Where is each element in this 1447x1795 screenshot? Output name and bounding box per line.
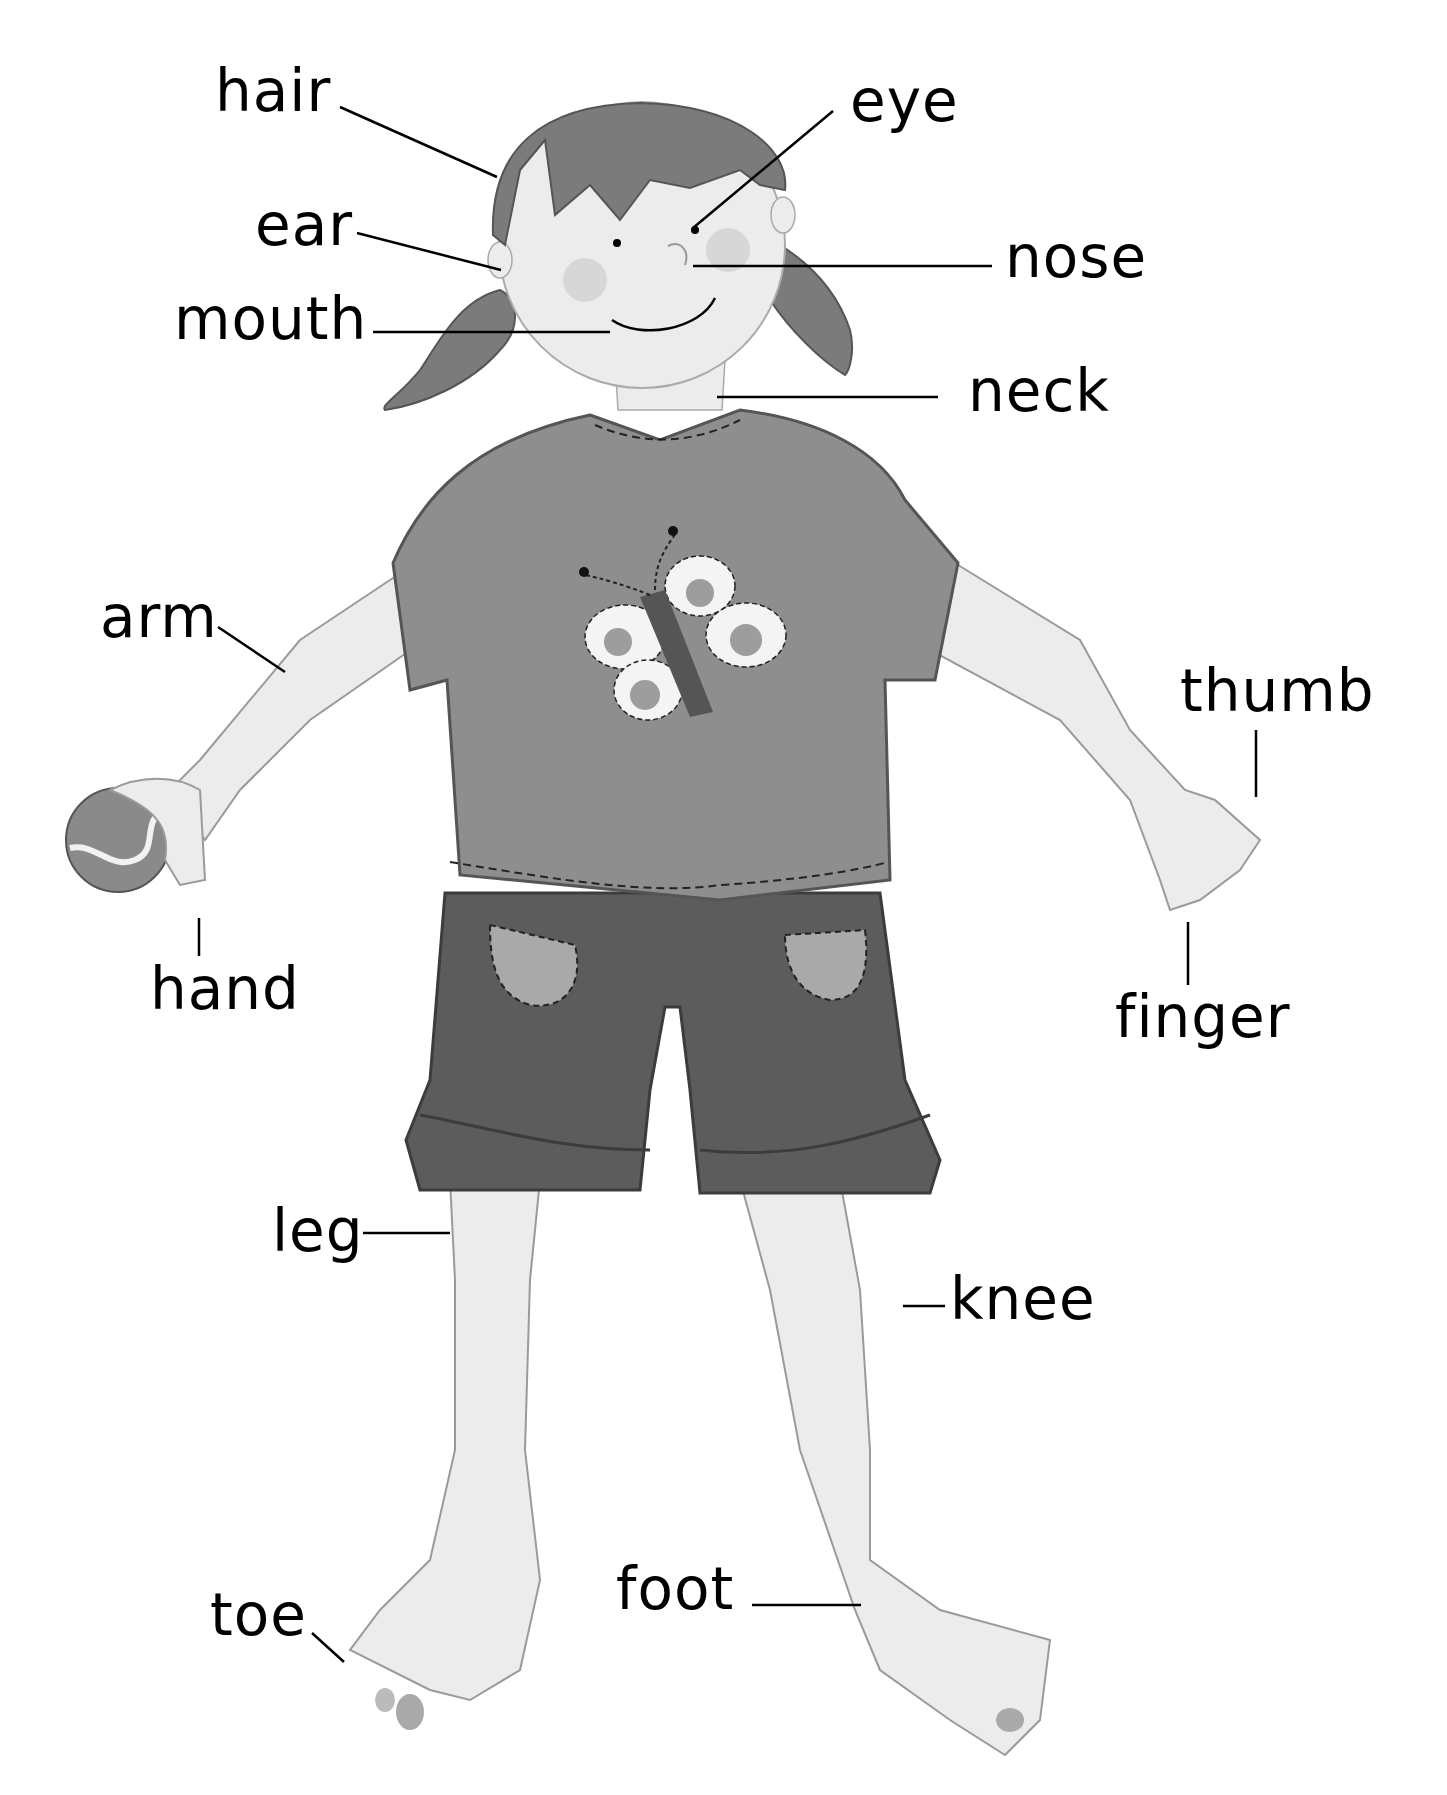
label-nose: nose bbox=[1005, 228, 1147, 286]
left-leg bbox=[350, 1180, 540, 1700]
label-eye: eye bbox=[850, 72, 959, 130]
label-neck: neck bbox=[968, 362, 1110, 420]
toe-leader-line bbox=[312, 1633, 344, 1662]
hair-leader-line bbox=[340, 107, 497, 177]
body-parts-diagram: hair eye ear nose mouth neck arm thumb h… bbox=[0, 0, 1447, 1795]
right-ear bbox=[771, 197, 795, 233]
label-arm: arm bbox=[100, 588, 218, 646]
ear-leader-line bbox=[357, 233, 501, 270]
label-ear: ear bbox=[255, 196, 353, 254]
label-hair: hair bbox=[215, 62, 331, 120]
arm-leader-line bbox=[218, 627, 285, 672]
left-pigtail bbox=[384, 290, 515, 410]
label-mouth: mouth bbox=[174, 290, 367, 348]
label-hand: hand bbox=[150, 960, 300, 1018]
left-ear bbox=[488, 242, 512, 278]
label-thumb: thumb bbox=[1180, 662, 1375, 720]
label-finger: finger bbox=[1115, 988, 1291, 1046]
label-foot: foot bbox=[616, 1560, 734, 1618]
label-leg: leg bbox=[272, 1202, 364, 1260]
label-toe: toe bbox=[210, 1586, 307, 1644]
eye-left bbox=[613, 239, 621, 247]
girl-illustration bbox=[0, 0, 1447, 1795]
cheek-left bbox=[563, 258, 607, 302]
label-knee: knee bbox=[950, 1270, 1096, 1328]
right-arm bbox=[930, 560, 1260, 910]
